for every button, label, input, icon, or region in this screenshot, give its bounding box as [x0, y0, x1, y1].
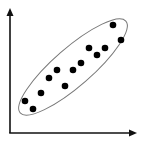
data-point — [102, 45, 109, 52]
data-point — [118, 37, 125, 44]
data-point — [54, 67, 61, 74]
data-point — [62, 83, 69, 90]
data-point — [22, 98, 29, 105]
data-point — [30, 106, 37, 113]
data-point — [46, 75, 53, 82]
y-axis-arrowhead-icon — [7, 8, 14, 16]
data-point — [110, 22, 117, 29]
data-points — [22, 22, 125, 113]
data-point — [70, 67, 77, 74]
scatter-plot — [0, 0, 144, 143]
data-point — [78, 60, 85, 67]
data-point — [94, 52, 101, 59]
data-point — [86, 45, 93, 52]
data-point — [38, 90, 45, 97]
x-axis-arrowhead-icon — [129, 130, 137, 137]
